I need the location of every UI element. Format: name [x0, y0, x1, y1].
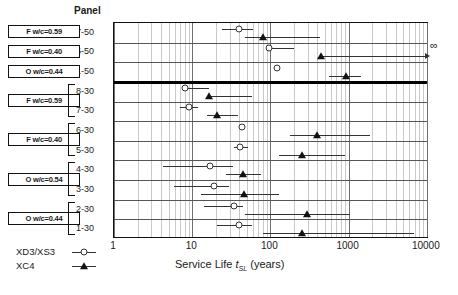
panel-id-label: 5-30: [76, 141, 110, 159]
marker-xc4: [317, 53, 325, 60]
x-tick-label: 10000: [412, 240, 440, 251]
panel-id-label: 5-50: [76, 42, 110, 60]
censored-arrow-icon: [425, 53, 430, 59]
x-axis-title-post: (years): [247, 258, 284, 270]
data-row: [114, 43, 427, 63]
error-bar: [269, 48, 294, 49]
error-bar: [245, 214, 350, 215]
error-bar: [209, 96, 252, 97]
panel-column-header: Panel: [74, 5, 101, 16]
marker-xd3-xs3: [236, 222, 243, 229]
error-bar: [279, 155, 345, 156]
panel-id-label: 3-30: [76, 180, 110, 198]
data-row: [114, 23, 427, 43]
panel-id-label: 1-50: [76, 62, 110, 80]
marker-xc4: [303, 210, 311, 217]
marker-xc4: [259, 33, 267, 40]
data-row: [114, 180, 427, 200]
mix-group-label: F w/c=0.40: [8, 45, 80, 58]
data-row: [114, 102, 427, 122]
data-row: [114, 219, 427, 239]
marker-xd3-xs3: [238, 123, 245, 130]
panel-id-label: 2-30: [76, 200, 110, 218]
x-axis-title-pre: Service Life: [175, 258, 236, 270]
marker-xd3-xs3: [230, 202, 237, 209]
data-row: [114, 82, 427, 102]
x-tick-label: 10: [186, 240, 197, 251]
marker-xd3-xs3: [210, 182, 217, 189]
error-bar: [321, 56, 427, 57]
x-tick-label: 1000: [336, 240, 358, 251]
marker-xc4: [298, 151, 306, 158]
panel-id-label: 7-30: [76, 101, 110, 119]
panel-id-label: 8-30: [76, 82, 110, 100]
error-bar: [245, 37, 319, 38]
error-bar: [207, 115, 237, 116]
marker-xc4: [213, 111, 221, 118]
marker-xc4: [313, 131, 321, 138]
x-tick-label: 100: [261, 240, 278, 251]
error-bar: [204, 206, 244, 207]
marker-xd3-xs3: [237, 143, 244, 150]
mix-group-label: O w/c=0.44: [8, 65, 80, 78]
x-axis-title: Service Life tSL (years): [175, 258, 284, 272]
data-row: [114, 62, 427, 82]
legend-label: XC4: [16, 260, 34, 271]
marker-xd3-xs3: [273, 65, 280, 72]
error-bar: [163, 166, 233, 167]
data-row: [114, 141, 427, 161]
data-row: [114, 121, 427, 141]
marker-xd3-xs3: [236, 25, 243, 32]
x-tick-label: 1: [110, 240, 116, 251]
group-brace: [68, 84, 75, 117]
error-bar: [290, 135, 370, 136]
data-row: [114, 200, 427, 220]
panel-id-label: 1-30: [76, 219, 110, 237]
group-brace: [68, 162, 75, 195]
marker-xd3-xs3: [265, 45, 272, 52]
marker-xd3-xs3: [207, 163, 214, 170]
legend-label: XD3/XS3: [16, 246, 55, 257]
mix-group-label: F w/c=0.59: [8, 25, 80, 38]
error-bar: [263, 233, 414, 234]
marker-xd3-xs3: [181, 84, 188, 91]
chart-figure: Panel 7-50F w/c=0.595-50F w/c=0.401-50O …: [0, 0, 458, 295]
x-axis-title-sub: SL: [239, 265, 248, 272]
marker-xc4: [342, 72, 350, 79]
plot-area: [113, 22, 428, 238]
panel-id-label: 7-50: [76, 23, 110, 41]
group-brace: [68, 202, 75, 235]
panel-id-label: 6-30: [76, 121, 110, 139]
infinity-symbol: ∞: [430, 39, 438, 51]
data-row: [114, 160, 427, 180]
marker-xc4: [298, 229, 306, 236]
panel-id-label: 4-30: [76, 160, 110, 178]
group-brace: [68, 123, 75, 156]
error-bar: [185, 88, 210, 89]
legend-marker-xd3-xs3: [81, 249, 88, 256]
marker-xc4: [240, 190, 248, 197]
legend-marker-xc4: [80, 262, 88, 269]
marker-xc4: [205, 92, 213, 99]
error-bar: [174, 186, 230, 187]
marker-xd3-xs3: [185, 104, 192, 111]
marker-xc4: [239, 170, 247, 177]
